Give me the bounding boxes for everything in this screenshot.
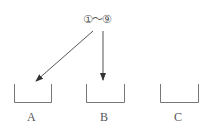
arrow-to-a [36, 31, 93, 81]
container-b [87, 84, 125, 103]
container-a [15, 84, 52, 103]
container-label-a: A [27, 110, 36, 125]
container-label-c: C [174, 110, 182, 125]
container-c [161, 84, 199, 103]
container-label-b: B [100, 110, 108, 125]
